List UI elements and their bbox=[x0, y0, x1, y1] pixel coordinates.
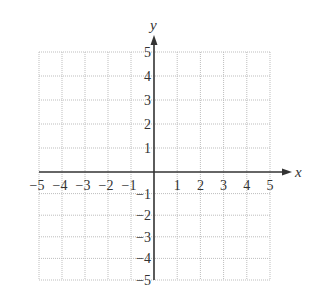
x-axis-label: x bbox=[294, 164, 302, 180]
y-tick-label: 4 bbox=[144, 69, 151, 84]
y-tick-label: −1 bbox=[136, 187, 151, 202]
y-axis-arrow-icon bbox=[151, 35, 158, 45]
axes bbox=[39, 35, 292, 280]
y-tick-label: −4 bbox=[136, 251, 151, 266]
y-axis-label: y bbox=[148, 17, 157, 33]
x-tick-label: 4 bbox=[243, 178, 250, 193]
x-tick-label: −4 bbox=[53, 178, 68, 193]
y-tick-label: −3 bbox=[136, 230, 151, 245]
x-tick-label: −5 bbox=[30, 178, 45, 193]
coordinate-plane: −5−4−3−2−112345 54321−1−2−3−4−5 x y bbox=[0, 0, 313, 306]
x-tick-label: −2 bbox=[99, 178, 114, 193]
x-tick-label: 3 bbox=[220, 178, 227, 193]
y-tick-label: 1 bbox=[144, 141, 151, 156]
y-tick-label: −2 bbox=[136, 208, 151, 223]
y-tick-label: 5 bbox=[144, 45, 151, 60]
x-axis-arrow-icon bbox=[282, 169, 292, 176]
y-tick-label: −5 bbox=[136, 273, 151, 288]
x-tick-labels: −5−4−3−2−112345 bbox=[30, 178, 274, 193]
x-tick-label: 1 bbox=[174, 178, 181, 193]
x-tick-label: 5 bbox=[267, 178, 274, 193]
y-tick-label: 3 bbox=[144, 93, 151, 108]
x-tick-label: 2 bbox=[197, 178, 204, 193]
x-tick-label: −1 bbox=[122, 178, 137, 193]
y-tick-label: 2 bbox=[144, 117, 151, 132]
y-tick-labels: 54321−1−2−3−4−5 bbox=[136, 45, 151, 288]
x-tick-label: −3 bbox=[76, 178, 91, 193]
